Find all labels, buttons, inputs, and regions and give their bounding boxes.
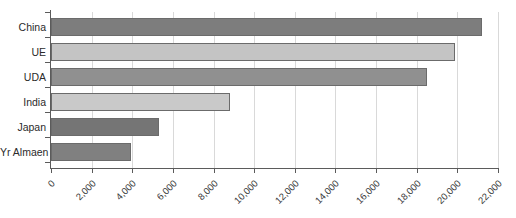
x-axis-tick	[457, 169, 458, 173]
bar-uda	[51, 68, 427, 86]
y-axis-tick	[45, 37, 51, 38]
x-axis-tick	[376, 169, 377, 173]
bar-ue	[51, 43, 455, 61]
x-axis-tick	[51, 169, 52, 173]
x-axis-tick	[335, 169, 336, 173]
x-axis-tick	[173, 169, 174, 173]
bar-india	[51, 93, 230, 111]
bar-chart: ChinaUEUDAIndiaJapanYr Almaen 02,0004,00…	[0, 0, 516, 218]
y-axis-tick	[45, 87, 51, 88]
bar-yr-almaen	[51, 143, 131, 161]
bar-china	[51, 18, 482, 36]
y-axis-tick	[45, 62, 51, 63]
x-axis-tick	[417, 169, 418, 173]
x-axis-tick	[92, 169, 93, 173]
category-label-india: India	[0, 96, 46, 108]
category-label-ue: UE	[0, 46, 46, 58]
x-axis-tick	[295, 169, 296, 173]
category-label-yr-almaen: Yr Almaen	[0, 146, 46, 158]
gridline	[498, 12, 499, 168]
y-axis-tick	[45, 137, 51, 138]
x-axis-line	[50, 168, 499, 169]
y-axis-tick	[45, 112, 51, 113]
category-label-uda: UDA	[0, 71, 46, 83]
x-axis-tick	[132, 169, 133, 173]
x-axis-tick	[254, 169, 255, 173]
x-axis-tick-label: 0	[5, 178, 57, 218]
category-label-china: China	[0, 21, 46, 33]
x-axis-tick	[498, 169, 499, 173]
bar-japan	[51, 118, 159, 136]
category-label-japan: Japan	[0, 121, 46, 133]
y-axis-tick	[45, 162, 51, 163]
x-axis-tick	[214, 169, 215, 173]
y-axis-tick	[45, 12, 51, 13]
